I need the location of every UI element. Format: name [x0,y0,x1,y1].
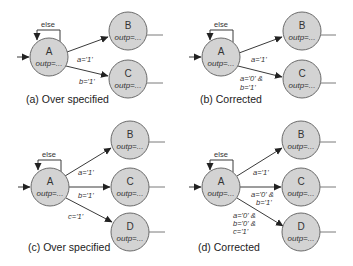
condition-label: b='1' [240,83,256,92]
condition-label: a='1' [253,168,269,177]
panel-d: else a='1' a='0' & b='1' a='0' & b='0' &… [189,121,336,253]
panel-caption: (a) Over specified [26,93,109,105]
condition-label: b='1' [78,191,94,200]
state-name: D [297,221,304,232]
state-output: outp=... [36,59,63,68]
state-c: C outp=... [109,60,163,98]
state-name: D [126,221,133,232]
state-a: A outp=... [202,38,240,76]
transition-a-to-c [66,66,108,76]
state-name: A [46,46,53,57]
state-d: D outp=... [111,213,165,251]
state-name: B [299,20,306,31]
state-output: outp=... [288,189,315,198]
state-output: outp=... [208,189,235,198]
state-name: A [218,176,225,187]
state-name: A [218,46,225,57]
else-label: else [41,20,55,29]
condition-label: c='1' [68,212,84,221]
state-name: B [125,20,132,31]
transition-a-to-b [67,37,108,52]
panel-caption: (d) Corrected [198,241,260,253]
condition-label: a='1' [78,168,94,177]
panel-caption: (b) Corrected [200,93,262,105]
state-a: A outp=... [202,168,240,206]
state-output: outp=... [289,81,316,90]
panel-a: else a='1' b='1' A outp=... B outp=... C… [17,12,163,105]
state-name: C [297,176,304,187]
condition-label: c='1' [233,227,249,236]
state-d: D outp=... [282,213,336,251]
state-a: A outp=... [31,168,69,206]
transition-a-to-b [239,37,282,53]
state-c: C outp=... [111,168,165,206]
else-label: else [214,20,228,29]
panel-b: else a='1' a='0' & b='1' A outp=... B ou… [189,12,336,105]
state-output: outp=... [117,234,144,243]
state-name: B [298,129,305,140]
condition-label: a='0' & [240,74,263,83]
state-output: outp=... [115,81,142,90]
state-output: outp=... [288,234,315,243]
state-c: C outp=... [282,168,336,206]
condition-label: b='1' [256,198,272,207]
else-label: else [214,150,228,159]
state-name: A [47,176,54,187]
state-output: outp=... [117,189,144,198]
state-name: B [127,129,134,140]
condition-label: a='1' [251,55,267,64]
state-output: outp=... [208,59,235,68]
panel-caption: (c) Over specified [28,241,110,253]
state-c: C outp=... [283,60,336,98]
state-output: outp=... [289,33,316,42]
state-name: C [298,68,305,79]
panel-c: else a='1' b='1' c='1' A outp=... B outp… [18,121,165,253]
state-output: outp=... [37,189,64,198]
state-b: B outp=... [111,121,165,159]
state-name: C [124,68,131,79]
state-b: B outp=... [283,12,336,50]
state-output: outp=... [115,33,142,42]
state-b: B outp=... [282,121,336,159]
state-b: B outp=... [109,12,163,50]
state-diagram-figure: else a='1' b='1' A outp=... B outp=... C… [0,0,353,266]
condition-label: b='1' [79,77,95,86]
state-output: outp=... [117,142,144,151]
condition-label: a='1' [77,55,93,64]
else-label: else [42,150,56,159]
state-name: C [126,176,133,187]
state-output: outp=... [288,142,315,151]
state-a: A outp=... [30,38,68,76]
